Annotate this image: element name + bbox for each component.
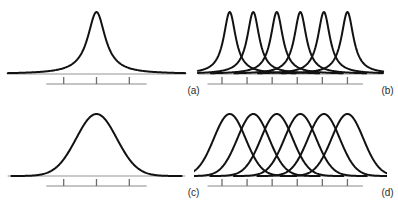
peak-curve bbox=[234, 114, 367, 176]
peak-curve bbox=[234, 12, 366, 73]
peak-curve bbox=[194, 114, 320, 176]
peak-curve bbox=[257, 114, 387, 176]
peak-curve bbox=[211, 12, 343, 73]
peak-curve bbox=[8, 12, 186, 73]
panel-d-label: (d) bbox=[194, 187, 398, 198]
peak-curve bbox=[210, 114, 343, 176]
peak-curve bbox=[11, 114, 181, 176]
panel-b-label: (b) bbox=[194, 85, 398, 96]
